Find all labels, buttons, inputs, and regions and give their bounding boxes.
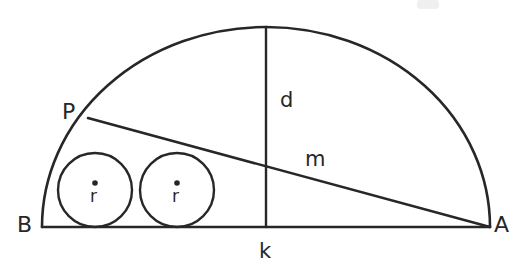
diagram-canvas: [0, 0, 516, 271]
label-radius-left: r: [90, 188, 97, 205]
circle-left-center-dot: [92, 180, 98, 186]
chord-line-m: [88, 118, 490, 227]
label-point-P: P: [62, 101, 75, 123]
geometry-diagram: B A P d m k r r: [0, 0, 516, 271]
label-vertex-B: B: [17, 214, 32, 236]
label-segment-d: d: [280, 90, 293, 111]
label-vertex-A: A: [494, 214, 509, 236]
circle-right-center-dot: [174, 180, 180, 186]
label-segment-k: k: [259, 241, 271, 262]
label-radius-right: r: [172, 188, 179, 205]
label-segment-m: m: [305, 149, 325, 170]
